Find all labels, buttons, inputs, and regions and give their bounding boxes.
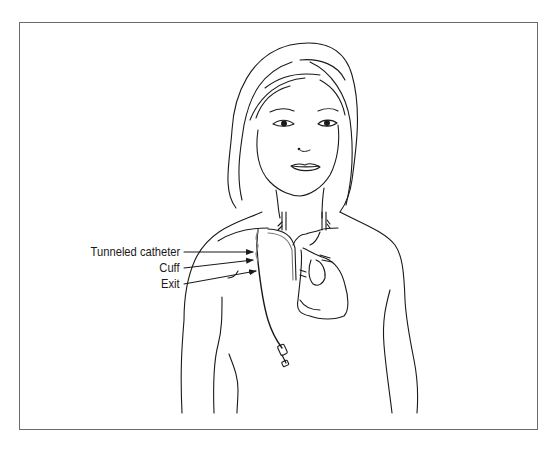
- heart: [268, 228, 348, 319]
- label-tunneled-catheter: Tunneled catheter: [90, 244, 180, 259]
- catheter: [256, 230, 289, 367]
- label-cuff: Cuff: [160, 260, 180, 275]
- neck-vessels: [278, 212, 330, 230]
- label-exit: Exit: [161, 276, 180, 291]
- neck: [276, 188, 324, 218]
- label-arrows: [184, 252, 256, 284]
- face-outline: [257, 109, 339, 196]
- anatomical-illustration: [0, 0, 554, 450]
- torso-outline: [181, 212, 417, 413]
